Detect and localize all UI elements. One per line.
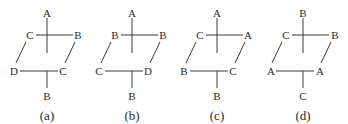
diagram-d-drawing: B C B A A C (d) — [258, 0, 345, 124]
diagram-c: A C A B C B (c) — [170, 0, 257, 124]
label-top: A — [128, 7, 136, 19]
right-ring-bond — [321, 42, 331, 63]
label-upper-left: C — [26, 29, 33, 41]
right-ring-bond — [150, 42, 160, 63]
label-bottom: C — [299, 90, 306, 102]
caption: (b) — [124, 108, 139, 123]
label-upper-right: B — [74, 29, 81, 41]
left-ring-bond — [16, 42, 26, 63]
diagram-d: B C B A A C (d) — [258, 0, 345, 124]
diagram-b-drawing: A B B C D B (b) — [85, 0, 172, 124]
caption: (d) — [295, 108, 310, 123]
label-upper-left: B — [111, 29, 118, 41]
diagram-c-drawing: A C A B C B (c) — [170, 0, 257, 124]
label-top: A — [213, 7, 221, 19]
right-ring-bond — [65, 42, 75, 63]
left-ring-bond — [101, 42, 111, 63]
label-bottom: B — [213, 90, 220, 102]
diagram-a: A C B D C B (a) — [0, 0, 87, 124]
label-lower-left: B — [180, 65, 187, 77]
label-lower-right: C — [229, 65, 236, 77]
label-lower-right: D — [144, 65, 152, 77]
label-lower-left: A — [267, 65, 275, 77]
diagram-b: A B B C D B (b) — [85, 0, 172, 124]
label-bottom: B — [43, 90, 50, 102]
caption: (a) — [40, 108, 54, 123]
label-top: A — [43, 7, 51, 19]
label-lower-left: D — [10, 65, 18, 77]
label-upper-right: B — [159, 29, 166, 41]
label-upper-left: C — [196, 29, 203, 41]
right-ring-bond — [235, 42, 245, 63]
diagram-a-drawing: A C B D C B (a) — [0, 0, 87, 124]
label-lower-right: C — [59, 65, 66, 77]
label-bottom: B — [128, 90, 135, 102]
label-top: B — [299, 7, 306, 19]
label-upper-right: A — [244, 29, 252, 41]
label-lower-left: C — [95, 65, 102, 77]
caption: (c) — [210, 108, 224, 123]
label-upper-right: B — [331, 29, 338, 41]
left-ring-bond — [186, 42, 196, 63]
left-ring-bond — [272, 42, 282, 63]
label-upper-left: C — [282, 29, 289, 41]
label-lower-right: A — [316, 65, 324, 77]
